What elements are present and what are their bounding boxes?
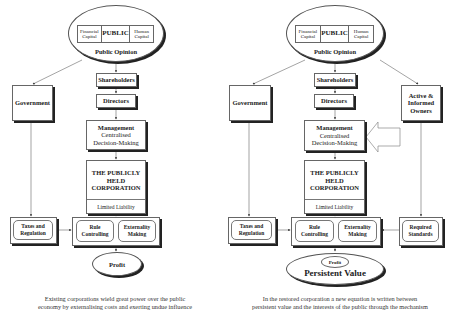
management-line2: Decision-Making <box>93 139 139 146</box>
hollow-arrow-icon <box>366 122 400 152</box>
shareholders-box-right: Shareholders <box>314 73 356 87</box>
right-caption-line1: In the restored corporation a new equati… <box>229 295 451 303</box>
public-opinion-label: Public Opinion <box>78 48 154 55</box>
corp-line3-right: CORPORATION <box>310 184 359 191</box>
taxes-line1: Taxes and <box>21 223 45 230</box>
externality-line1-right: Externality <box>344 224 371 231</box>
human-capital-right: Human Capital <box>349 26 373 42</box>
limited-liability: Limited Liability <box>87 199 145 213</box>
owners-line2: Informed <box>408 99 434 106</box>
externality-making-box-right: Externality Making <box>338 220 377 242</box>
owners-line1: Active & <box>409 92 434 99</box>
corp-line2: HELD <box>92 177 141 184</box>
management-line1-right: Centralised <box>320 132 350 139</box>
management-line2-right: Decision-Making <box>312 139 358 146</box>
profit-small-oval: Profit <box>321 256 349 268</box>
profit-label: Profit <box>109 261 125 268</box>
profit-label-right: Profit <box>329 260 341 265</box>
public-opinion-label-right: Public Opinion <box>296 48 374 55</box>
directors-box: Directors <box>96 94 136 108</box>
required-standards-box: Required Standards <box>402 220 439 242</box>
corporation-title-right: THE PUBLICLY HELD CORPORATION <box>310 161 359 199</box>
taxes-line1-right: Taxes and <box>240 223 264 230</box>
persistent-value-label: Persistent Value <box>286 268 384 278</box>
rule-line2: Controlling <box>81 231 108 238</box>
taxes-box-right: Taxes and Regulation <box>231 220 272 240</box>
public-table-right: Financial Capital PUBLIC Human Capital <box>295 25 374 43</box>
public-table: Financial Capital PUBLIC Human Capital <box>77 25 154 43</box>
human-capital: Human Capital <box>130 26 153 42</box>
government-box-right: Government <box>229 85 271 121</box>
public-label-right: PUBLIC <box>321 26 350 42</box>
corp-line1: THE PUBLICLY <box>92 169 141 176</box>
externality-line2-right: Making <box>348 231 366 238</box>
financial-capital-right: Financial Capital <box>296 26 321 42</box>
public-label: PUBLIC <box>102 26 131 42</box>
financial-capital: Financial Capital <box>78 26 102 42</box>
profit-ellipse: Profit <box>92 252 142 276</box>
left-caption-line2: economy by externalising costs and exert… <box>10 303 220 311</box>
externality-line2: Making <box>128 231 146 238</box>
government-box: Government <box>12 85 53 121</box>
directors-box-right: Directors <box>314 94 354 108</box>
right-caption: In the restored corporation a new equati… <box>229 295 451 311</box>
connector-lines <box>0 0 452 315</box>
externality-making-box: Externality Making <box>118 220 156 242</box>
standards-line1: Required <box>410 224 432 231</box>
taxes-line2-right: Regulation <box>239 230 265 237</box>
rule-controlling-box-right: Rule Controlling <box>295 220 334 242</box>
owners-line3: Owners <box>410 107 432 114</box>
corp-line1-right: THE PUBLICLY <box>310 169 359 176</box>
management-title-right: Management <box>316 124 352 131</box>
left-caption-line1: Existing corporations wield great power … <box>10 295 220 303</box>
rule-line1-right: Rule <box>309 224 320 231</box>
corporation-title: THE PUBLICLY HELD CORPORATION <box>92 161 141 199</box>
corporation-box: THE PUBLICLY HELD CORPORATION Limited Li… <box>86 160 146 214</box>
corp-line3: CORPORATION <box>92 184 141 191</box>
rule-line1: Rule <box>90 224 101 231</box>
corp-line2-right: HELD <box>310 177 359 184</box>
shareholders-box: Shareholders <box>96 73 137 87</box>
taxes-line2: Regulation <box>20 230 46 237</box>
limited-liability-right: Limited Liability <box>305 199 364 213</box>
management-line1: Centralised <box>101 131 131 138</box>
corporation-box-right: THE PUBLICLY HELD CORPORATION Limited Li… <box>304 160 365 214</box>
rule-line2-right: Controlling <box>301 231 328 238</box>
left-caption: Existing corporations wield great power … <box>10 295 220 311</box>
externality-line1: Externality <box>124 224 151 231</box>
standards-line2: Standards <box>408 231 432 238</box>
management-title: Management <box>98 124 134 131</box>
rule-controlling-box: Rule Controlling <box>76 220 114 242</box>
management-box: Management Centralised Decision-Making <box>86 120 146 150</box>
management-box-right: Management Centralised Decision-Making <box>304 120 365 151</box>
right-caption-line2: persistent value and the interests of th… <box>229 303 451 311</box>
active-owners-box: Active & Informed Owners <box>401 85 441 121</box>
taxes-box: Taxes and Regulation <box>13 220 53 240</box>
